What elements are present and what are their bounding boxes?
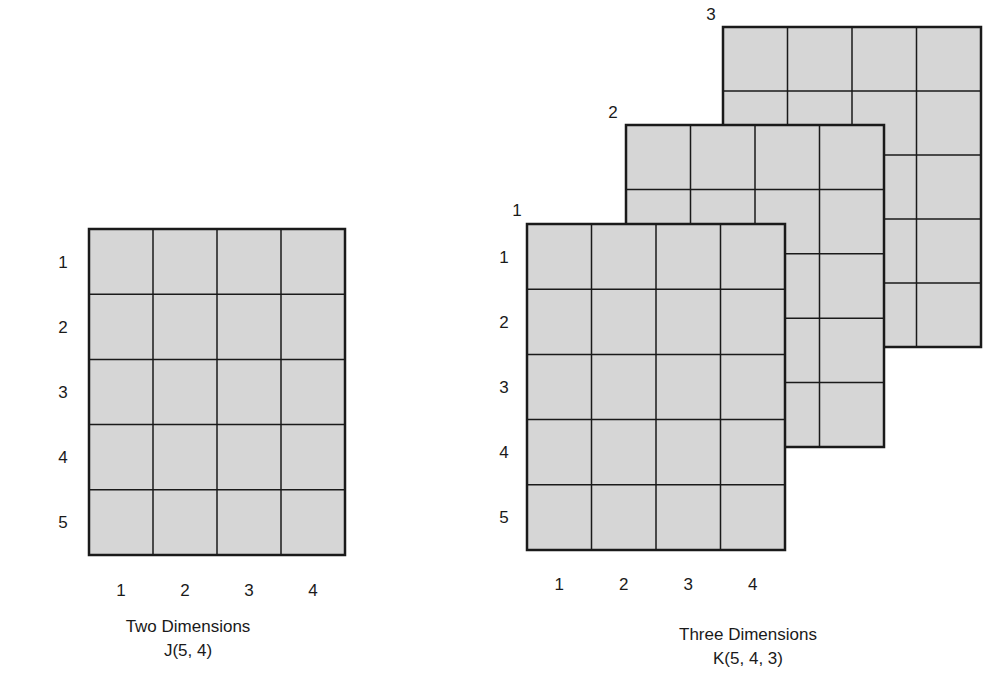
column-label: 1	[116, 581, 125, 600]
page-label: 2	[608, 103, 617, 122]
row-label: 2	[58, 318, 67, 337]
row-label: 1	[499, 248, 508, 267]
three-dimensional-array: 321123451234	[499, 5, 981, 594]
page-label: 3	[706, 5, 715, 24]
column-label: 2	[619, 575, 628, 594]
row-label: 1	[58, 253, 67, 272]
column-label: 4	[748, 575, 757, 594]
row-label: 4	[499, 443, 508, 462]
row-label: 5	[58, 513, 67, 532]
row-label: 5	[499, 508, 508, 527]
row-label: 3	[499, 378, 508, 397]
row-label: 4	[58, 448, 67, 467]
column-label: 4	[308, 581, 317, 600]
page-label: 1	[512, 201, 521, 220]
column-label: 3	[244, 581, 253, 600]
column-label: 1	[555, 575, 564, 594]
two-d-caption-notation: J(5, 4)	[164, 641, 212, 660]
three-d-caption-title: Three Dimensions	[679, 625, 817, 644]
two-d-caption-title: Two Dimensions	[126, 617, 251, 636]
two-d-grid	[89, 229, 345, 555]
row-label: 3	[58, 383, 67, 402]
page-1-grid	[527, 224, 785, 550]
column-label: 2	[180, 581, 189, 600]
two-dimensional-array: 123451234	[58, 229, 345, 600]
three-d-caption-notation: K(5, 4, 3)	[713, 649, 783, 668]
row-label: 2	[499, 313, 508, 332]
column-label: 3	[684, 575, 693, 594]
array-dimensions-diagram: 123451234 321123451234 Two Dimensions J(…	[0, 0, 991, 699]
